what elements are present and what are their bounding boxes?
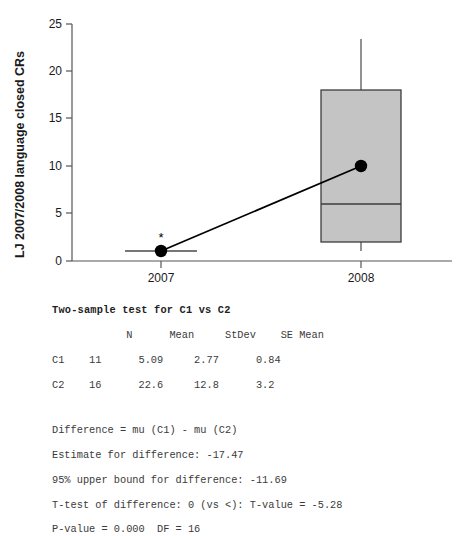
boxplot-chart: LJ 2007/2008 language closed CRs 25 20 1… — [0, 0, 458, 288]
x-tick-label-2008: 2008 — [348, 271, 375, 285]
x-axis-ticks: 2007 2008 — [148, 261, 375, 285]
y-axis-ticks: 25 20 15 10 5 0 — [49, 17, 72, 268]
y-tick-label-10: 10 — [49, 159, 63, 173]
outlier-marker-2007: * — [158, 230, 163, 245]
stats-pvalue-line: P-value = 0.000 DF = 16 — [52, 523, 452, 535]
stats-column-header: N Mean StDev SE Mean — [52, 329, 452, 341]
stats-spacer — [52, 404, 452, 412]
y-axis-label: LJ 2007/2008 language closed CRs — [13, 51, 27, 258]
y-tick-label-20: 20 — [49, 64, 63, 78]
stats-difference-line: Difference = mu (C1) - mu (C2) — [52, 424, 452, 436]
stats-row-c1: C1 11 5.09 2.77 0.84 — [52, 354, 452, 366]
stats-upper-bound-line: 95% upper bound for difference: -11.69 — [52, 474, 452, 486]
stats-output-block: Two-sample test for C1 vs C2 N Mean StDe… — [52, 292, 452, 536]
mean-marker-2008 — [355, 160, 367, 172]
x-tick-label-2007: 2007 — [148, 271, 175, 285]
y-tick-label-0: 0 — [55, 254, 62, 268]
stats-header: Two-sample test for C1 vs C2 — [52, 304, 452, 316]
y-tick-label-5: 5 — [55, 206, 62, 220]
stats-row-c2: C2 16 22.6 12.8 3.2 — [52, 379, 452, 391]
stats-ttest-line: T-test of difference: 0 (vs <): T-value … — [52, 499, 452, 511]
boxplot-svg: LJ 2007/2008 language closed CRs 25 20 1… — [0, 0, 458, 288]
y-tick-label-25: 25 — [49, 17, 63, 31]
y-tick-label-15: 15 — [49, 111, 63, 125]
mean-marker-2007 — [155, 245, 167, 257]
box-group-2008 — [321, 39, 401, 251]
stats-estimate-line: Estimate for difference: -17.47 — [52, 449, 452, 461]
